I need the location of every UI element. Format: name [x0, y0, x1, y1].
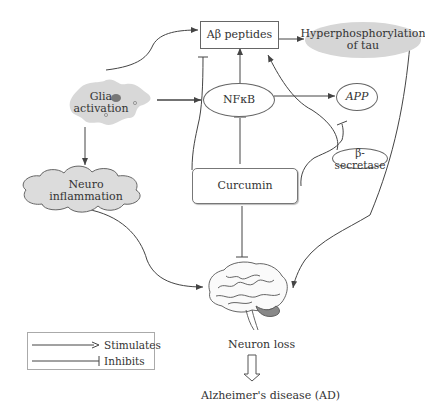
edge-curcumin-inhibits-abeta [192, 57, 203, 170]
bsecretase-label: β-secretase [333, 147, 387, 171]
stimulates-label: Stimulates [104, 339, 161, 351]
node-curcumin: Curcumin [192, 168, 298, 204]
abeta-label: Aβ peptides [207, 29, 273, 41]
legend-stimulates: Stimulates [32, 339, 161, 351]
edge-neuroinflammation-to-neuronloss [86, 209, 203, 287]
node-hyperphosphorylation-of-tau: Hyperphosphorylation of tau [305, 22, 421, 58]
inhibits-label: Inhibits [104, 355, 145, 367]
node-nfkb: NFκB [203, 83, 275, 117]
neuroinf-label-2: inflammation [49, 191, 123, 203]
legend-inhibits: Inhibits [32, 355, 145, 367]
node-glia-activation: Glia activation [76, 89, 126, 117]
edge-neuronloss-to-ad [244, 355, 260, 381]
glia-label-2: activation [73, 103, 128, 115]
curcumin-label: Curcumin [217, 180, 272, 192]
alzheimers-disease-label: Alzheimer's disease (AD) [201, 389, 340, 402]
nfkb-label: NFκB [223, 94, 255, 106]
legend: Stimulates Inhibits [27, 332, 155, 370]
inhibits-bar-icon [32, 355, 100, 367]
node-beta-secretase: β-secretase [332, 148, 388, 169]
stimulates-arrow-icon [32, 340, 100, 350]
edge-bsecretase-to-abeta [268, 55, 338, 150]
node-abeta-peptides: Aβ peptides [200, 21, 279, 49]
app-label: APP [346, 91, 369, 103]
edge-glia-to-abeta [106, 30, 198, 70]
node-app: APP [336, 83, 378, 111]
brain-illustration [209, 262, 287, 330]
neuron-loss-label: Neuron loss [228, 338, 295, 351]
node-neuroinflammation: Neuro inflammation [46, 178, 126, 204]
hyper-label-2: of tau [347, 40, 379, 52]
